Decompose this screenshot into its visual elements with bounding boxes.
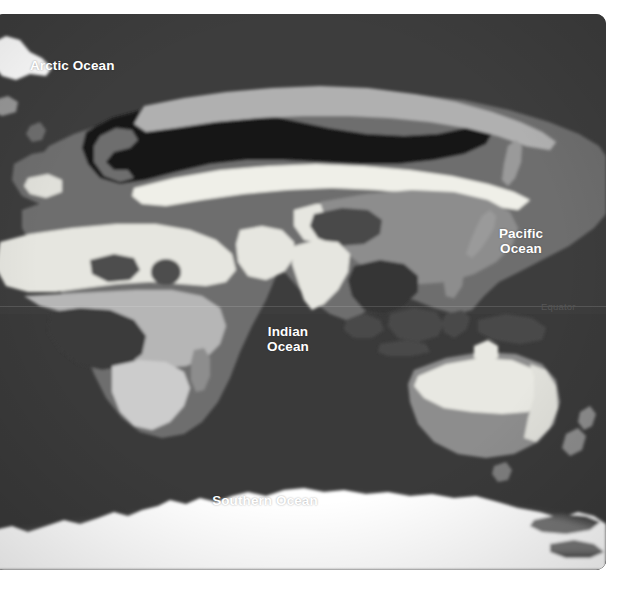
- world-map-panel[interactable]: Equator Arctic Ocean Pacific Ocean India…: [0, 14, 606, 570]
- map-vignette: [0, 14, 606, 570]
- world-map-graphic: [0, 14, 606, 570]
- screenshot-root: Equator Arctic Ocean Pacific Ocean India…: [0, 0, 620, 595]
